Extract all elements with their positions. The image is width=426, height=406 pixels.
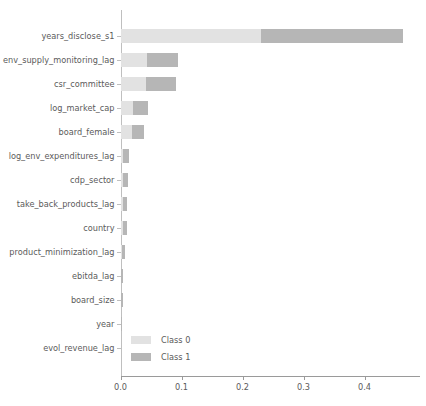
x-axis-tick	[182, 376, 183, 380]
bar-row: take_back_products_lag	[121, 192, 420, 216]
bar-row: cdp_sector	[121, 168, 420, 192]
bar-row: board_female	[121, 120, 420, 144]
bar-segment-class-0	[121, 125, 133, 139]
y-axis-tick-label: years_disclose_s1	[41, 24, 114, 48]
bar-row: csr_committee	[121, 72, 420, 96]
bar-row: years_disclose_s1	[121, 24, 420, 48]
bar-row: board_size	[121, 288, 420, 312]
x-axis-tick-label: 0.3	[297, 382, 310, 392]
stacked-bar	[121, 317, 123, 331]
y-axis-tick-label: log_env_expenditures_lag	[9, 144, 115, 168]
stacked-bar	[121, 269, 124, 283]
legend-label: Class 1	[161, 352, 190, 362]
y-axis-tick-label: cdp_sector	[70, 168, 114, 192]
y-axis-tick-label: csr_committee	[54, 72, 114, 96]
bar-segment-class-0	[121, 29, 261, 43]
stacked-bar	[121, 221, 127, 235]
bar-segment-class-1	[123, 221, 127, 235]
x-axis-spine	[121, 376, 420, 377]
stacked-bar	[121, 197, 128, 211]
x-axis-tick-label: 0.4	[358, 382, 371, 392]
x-axis-tick	[365, 376, 366, 380]
y-axis-tick	[117, 348, 121, 349]
stacked-bar	[121, 173, 129, 187]
bar-segment-class-1	[123, 149, 129, 163]
legend-item[interactable]: Class 1	[131, 350, 190, 364]
stacked-bar	[121, 53, 179, 67]
bar-row: ebitda_lag	[121, 264, 420, 288]
y-axis-tick-label: take_back_products_lag	[17, 192, 115, 216]
bar-segment-class-1	[147, 53, 178, 67]
y-axis-tick-label: board_female	[59, 120, 115, 144]
y-axis-tick-label: env_supply_monitoring_lag	[3, 48, 115, 72]
stacked-bar	[121, 149, 130, 163]
y-axis-tick-label: ebitda_lag	[72, 264, 115, 288]
y-axis-tick-label: year	[96, 312, 114, 336]
bar-row: env_supply_monitoring_lag	[121, 48, 420, 72]
legend-swatch	[131, 336, 151, 344]
bar-row: log_market_cap	[121, 96, 420, 120]
x-axis-tick	[243, 376, 244, 380]
y-axis-tick-label: board_size	[71, 288, 115, 312]
bar-row: country	[121, 216, 420, 240]
bar-segment-class-1	[261, 29, 403, 43]
x-axis-tick	[121, 376, 122, 380]
bar-segment-class-1	[133, 101, 148, 115]
stacked-bar	[121, 293, 124, 307]
bar-segment-class-1	[122, 245, 125, 259]
stacked-bar	[121, 29, 403, 43]
bar-segment-class-1	[121, 317, 122, 331]
x-axis-tick	[304, 376, 305, 380]
stacked-bar	[121, 77, 177, 91]
x-axis-tick-label: 0.0	[114, 382, 127, 392]
chart-legend: Class 0Class 1	[131, 333, 190, 367]
legend-item[interactable]: Class 0	[131, 333, 190, 347]
bar-segment-class-1	[132, 125, 144, 139]
bar-row: product_minimization_lag	[121, 240, 420, 264]
legend-swatch	[131, 353, 151, 361]
stacked-bar	[121, 101, 148, 115]
stacked-bar	[121, 245, 126, 259]
y-axis-tick-label: product_minimization_lag	[9, 240, 114, 264]
stacked-bar	[121, 125, 144, 139]
legend-label: Class 0	[161, 335, 190, 345]
y-axis-tick-label: evol_revenue_lag	[43, 336, 114, 360]
y-axis-tick-label: log_market_cap	[50, 96, 114, 120]
bar-segment-class-1	[123, 173, 128, 187]
feature-importance-chart: years_disclose_s1env_supply_monitoring_l…	[0, 0, 426, 406]
bar-segment-class-0	[121, 53, 148, 67]
bar-segment-class-0	[121, 101, 134, 115]
x-axis-tick-label: 0.2	[236, 382, 249, 392]
bar-segment-class-1	[146, 77, 176, 91]
plot-area: years_disclose_s1env_supply_monitoring_l…	[121, 10, 420, 375]
bar-segment-class-1	[121, 293, 123, 307]
bar-segment-class-1	[123, 197, 128, 211]
bar-segment-class-0	[121, 77, 147, 91]
x-axis-tick-label: 0.1	[175, 382, 188, 392]
bar-row: log_env_expenditures_lag	[121, 144, 420, 168]
y-axis-tick-label: country	[83, 216, 114, 240]
bar-segment-class-1	[121, 269, 123, 283]
